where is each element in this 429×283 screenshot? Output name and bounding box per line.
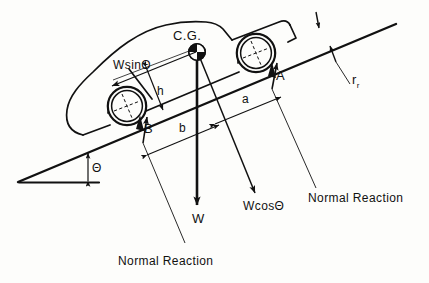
- wsin-theta-label: WsinΘ: [113, 58, 151, 72]
- dimension-b-label: b: [179, 121, 186, 135]
- diagram-canvas: Θ: [0, 0, 429, 283]
- wcos-theta-vector: [200, 58, 255, 193]
- rolling-radius-upper-arrow: [316, 12, 319, 28]
- rolling-radius-dimension: [316, 12, 350, 84]
- free-body-diagram-figure: Θ: [0, 0, 429, 283]
- dimension-h-label: h: [157, 84, 164, 98]
- rolling-radius-label: rr: [352, 72, 360, 90]
- angle-theta-label: Θ: [92, 161, 102, 175]
- incline-plane: [18, 24, 396, 183]
- normal-reaction-front-label: Normal Reaction: [308, 191, 403, 205]
- weight-label: W: [192, 211, 205, 226]
- normal-reaction-front-leader: [272, 89, 316, 188]
- rolling-radius-leader: [336, 62, 350, 84]
- normal-reaction-rear-leader: [143, 143, 185, 243]
- normal-reaction-rear-label: Normal Reaction: [118, 254, 213, 268]
- wheel-icon-front: [237, 34, 275, 72]
- point-a-label: A: [276, 68, 285, 83]
- center-of-gravity-icon: [189, 44, 205, 60]
- point-b-label: B: [144, 121, 153, 136]
- rolling-radius-subscript: r: [357, 81, 360, 90]
- wcos-theta-label: WcosΘ: [243, 199, 284, 213]
- cg-label: C.G.: [173, 28, 201, 43]
- slope-surface-line: [18, 24, 396, 182]
- dimension-a-label: a: [242, 92, 249, 106]
